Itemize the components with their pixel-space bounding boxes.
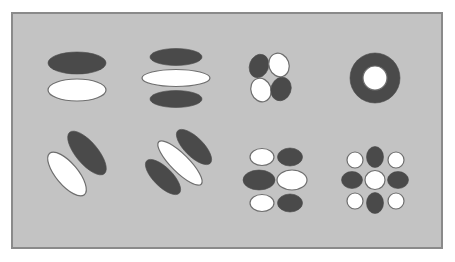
dark-lobe (150, 49, 202, 66)
light-lobe (277, 170, 307, 190)
light-lobe (48, 79, 106, 101)
light-lobe (347, 152, 363, 168)
light-lobe (250, 149, 274, 166)
light-lobe (142, 70, 210, 87)
pattern-center-surround-ring (350, 53, 400, 103)
receptive-field-diagram (0, 0, 455, 262)
dark-lobe (367, 193, 384, 214)
light-lobe (250, 195, 274, 212)
dark-lobe (278, 194, 303, 212)
dark-lobe (48, 52, 106, 74)
light-lobe (388, 193, 404, 209)
dark-lobe (342, 172, 363, 189)
pattern-three-lobe-horizontal (142, 49, 210, 108)
light-lobe (388, 152, 404, 168)
dark-lobe (243, 170, 275, 190)
dark-lobe (150, 91, 202, 108)
pattern-nine-lobe-grid (342, 147, 409, 214)
dark-lobe (367, 147, 384, 168)
dark-lobe (278, 148, 303, 166)
light-lobe (347, 193, 363, 209)
light-lobe (363, 66, 387, 90)
dark-lobe (388, 172, 409, 189)
light-lobe (365, 171, 385, 190)
